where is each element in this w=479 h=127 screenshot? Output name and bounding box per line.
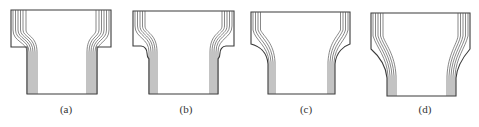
panel-a-label: (a) <box>60 103 72 115</box>
panel-c-label: (c) <box>300 103 312 115</box>
panel-c-flow-lines <box>253 12 348 94</box>
panel-b-label: (b) <box>180 103 193 115</box>
panel-d-shape <box>371 13 470 96</box>
panel-c-shape <box>251 12 350 94</box>
panel-d-label: (d) <box>419 103 432 115</box>
panel-a-shape <box>11 10 111 94</box>
panel-b-shape <box>133 11 234 94</box>
